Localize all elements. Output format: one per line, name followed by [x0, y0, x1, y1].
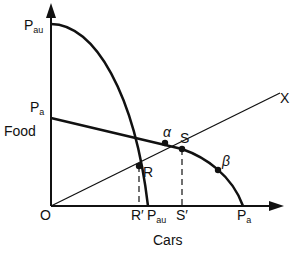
y-axis-arrow-icon — [46, 3, 56, 18]
ray-ox — [51, 93, 280, 206]
label-point-s: S — [180, 130, 189, 146]
label-point-alpha: α — [163, 124, 172, 140]
label-pau-y: Pau — [24, 17, 43, 35]
origin-label: O — [40, 207, 51, 223]
point-beta — [215, 167, 221, 173]
label-pa-x: Pa — [237, 207, 251, 225]
y-axis-label-food: Food — [4, 123, 36, 139]
label-point-r: R — [143, 164, 153, 180]
label-pau-x: Pau — [147, 207, 166, 225]
point-s — [179, 146, 185, 152]
x-axis-arrow-icon — [269, 201, 284, 211]
label-s-prime: S′ — [176, 207, 188, 223]
point-r — [136, 163, 142, 169]
label-ray-x: X — [280, 90, 290, 106]
point-alpha — [162, 140, 168, 146]
label-point-beta: β — [221, 153, 230, 169]
label-pa-y: Pa — [30, 99, 44, 117]
autarky-frontier-curve — [51, 24, 148, 206]
ppf-diagram: Pau Pa Food O R′ Pau S′ Pa Cars R S α β … — [0, 0, 291, 258]
x-axis-label-cars: Cars — [153, 232, 183, 248]
label-r-prime: R′ — [131, 207, 144, 223]
